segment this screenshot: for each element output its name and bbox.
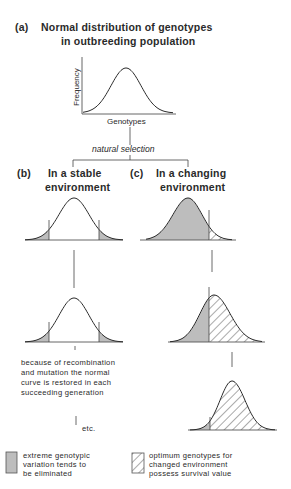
panel-b-note: because of recombination and mutation th… <box>21 346 115 433</box>
panel-a-label: (a) <box>15 21 28 33</box>
legend-shaded-line-3: be eliminated <box>23 469 72 478</box>
eliminated-tail-left <box>25 298 123 342</box>
hatched-swatch <box>132 453 144 473</box>
etc-label: etc. <box>82 424 95 433</box>
normal-curve <box>25 298 123 342</box>
panel-c-curve-2 <box>168 287 265 342</box>
panel-c-title-line1: In a changing <box>156 167 226 179</box>
note-line-3: curve is restored in each <box>21 378 111 387</box>
eliminated-tail-right <box>25 198 123 240</box>
legend-item-shaded: extreme genotypic variation tends to be … <box>6 451 90 478</box>
panel-c-label: (c) <box>130 167 143 179</box>
normal-curve <box>25 198 123 240</box>
legend-hatched-line-3: possess survival value <box>149 469 232 478</box>
panel-c-title-line2: environment <box>160 181 226 193</box>
panel-a-title-line2: in outbreeding population <box>61 35 195 47</box>
note-line-4: succeeding generation <box>21 388 104 397</box>
legend-shaded-line-2: variation tends to <box>23 460 86 469</box>
panel-c-curve-3 <box>188 352 277 430</box>
eliminated-tail-left <box>25 198 123 240</box>
y-axis-label: Frequency <box>72 68 81 106</box>
legend-hatched-line-1: optimum genotypes for <box>149 451 233 460</box>
legend-hatched-line-2: changed environment <box>149 460 228 469</box>
panel-b-curve-1 <box>25 198 123 240</box>
natural-selection-diagram: (a) Normal distribution of genotypes in … <box>0 0 291 489</box>
selection-connector: natural selection <box>73 127 188 167</box>
panel-b-label: (b) <box>17 167 31 179</box>
note-line-1: because of recombination <box>21 358 115 367</box>
note-line-2: and mutation the normal <box>21 368 110 377</box>
panel-c-curve-1 <box>140 198 236 240</box>
shaded-swatch <box>6 452 17 473</box>
panel-a-title: (a) Normal distribution of genotypes in … <box>15 21 213 47</box>
panel-c-title: (c) In a changing environment <box>130 167 226 193</box>
legend-shaded-line-1: extreme genotypic <box>23 451 90 460</box>
optimum-region <box>190 381 275 430</box>
eliminated-tail-right <box>25 298 123 342</box>
natural-selection-label: natural selection <box>92 144 155 154</box>
panel-b-curve-2 <box>25 298 123 342</box>
panel-a-chart: Frequency Genotypes <box>72 57 176 126</box>
optimum-region <box>170 295 262 342</box>
panel-b-title: (b) In a stable environment <box>17 167 111 193</box>
panel-b-title-line1: In a stable <box>48 167 102 179</box>
legend: extreme genotypic variation tends to be … <box>6 451 233 478</box>
connector-bracket <box>73 160 188 167</box>
normal-curve-a <box>83 68 173 113</box>
panel-b-title-line2: environment <box>45 181 111 193</box>
legend-item-hatched: optimum genotypes for changed environmen… <box>132 451 233 478</box>
panel-a-title-line1: Normal distribution of genotypes <box>41 21 213 33</box>
x-axis-label: Genotypes <box>107 117 146 126</box>
